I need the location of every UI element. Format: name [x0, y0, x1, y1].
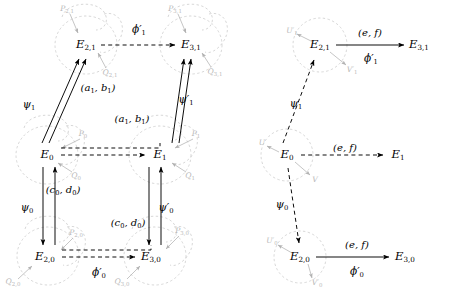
right-map-label-ef-top: (e, f) — [358, 28, 382, 38]
diagram-strokes — [0, 0, 453, 302]
point-label-Q31: Q3,1 — [208, 68, 223, 76]
right-map-label-phi0-prime: ϕ′0 — [350, 266, 364, 277]
right-map-label-psi1: ψ1 — [290, 98, 303, 109]
figure-canvas: E2,1 E3,1 E0 E1 E2,0 E3,0 ϕ′1 ψ1 ψ′1 ψ0 … — [0, 0, 453, 302]
node-E31: E3,1 — [181, 39, 201, 51]
right-point-label-U1-prime: U′1 — [286, 27, 298, 35]
node-E20: E2,0 — [35, 251, 55, 263]
map-label-psi1: ψ1 — [23, 99, 36, 110]
node-E1: E1 — [154, 149, 167, 161]
pair-label-a1b1-upper: (a1, b1) — [81, 83, 116, 93]
node-E21: E2,1 — [76, 39, 96, 51]
node-E30: E3,0 — [141, 251, 161, 263]
point-label-Q20: Q2,0 — [6, 278, 21, 286]
point-label-Q30: Q3,0 — [115, 278, 130, 286]
point-label-P31: P3,1 — [168, 5, 182, 13]
point-label-P30: P3,0 — [175, 227, 189, 235]
right-point-label-V1-prime: V′1 — [347, 66, 358, 74]
point-label-Q1: Q1 — [185, 172, 195, 180]
right-node-E21: E2,1 — [310, 39, 330, 51]
right-map-label-phi1-prime: ϕ′1 — [364, 53, 378, 64]
pair-label-a1b1-lower: (a1, b1) — [115, 114, 150, 124]
node-E0: E0 — [41, 149, 54, 161]
point-label-Q21: Q2,1 — [103, 69, 118, 77]
point-label-P21: P2,1 — [60, 5, 74, 13]
right-map-label-psi0: ψ0 — [276, 199, 289, 210]
right-point-label-V0-prime: V′0 — [312, 279, 323, 287]
point-label-P20: P2,0 — [69, 229, 83, 237]
point-label-P1: P1 — [192, 130, 201, 138]
map-label-psi0: ψ0 — [21, 202, 34, 213]
right-node-E30: E3,0 — [395, 251, 415, 263]
map-label-phi0-prime: ϕ′0 — [92, 267, 106, 278]
right-map-label-ef-mid: (e, f) — [333, 143, 357, 153]
point-label-Q0: Q0 — [71, 172, 81, 180]
right-point-label-U: U — [259, 139, 265, 147]
map-label-psi0-prime: ψ′0 — [159, 202, 174, 213]
right-node-E1: E1 — [392, 149, 405, 161]
right-point-label-U0-prime: U′0 — [266, 237, 278, 245]
pair-label-c0d0-upper: (c0, d0) — [46, 185, 81, 195]
point-label-P0: P0 — [79, 130, 88, 138]
right-node-E20: E2,0 — [290, 251, 310, 263]
right-map-label-ef-bottom: (e, f) — [345, 240, 369, 250]
right-node-E31: E3,1 — [409, 39, 429, 51]
right-point-label-V: V — [312, 176, 317, 184]
map-label-psi1-prime: ψ′1 — [179, 94, 194, 105]
map-label-phi1-prime: ϕ′1 — [132, 24, 146, 35]
pair-label-c0d0-lower: (c0, d0) — [111, 218, 146, 228]
right-node-E0: E0 — [281, 149, 294, 161]
